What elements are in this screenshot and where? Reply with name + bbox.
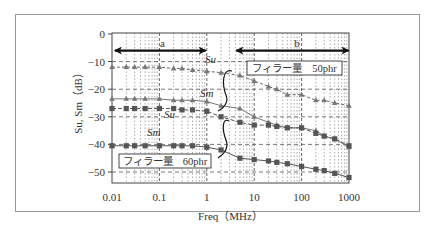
triangle-marker [190,67,196,72]
square-marker [285,161,290,166]
square-marker [299,125,304,130]
square-marker [332,136,337,141]
chart: 0−10−20−30−40−500.010.11101001000Freq（MH… [0,0,436,240]
square-marker [109,106,114,111]
x-axis-label: Freq（MHz） [198,210,263,222]
square-marker [190,143,195,148]
square-marker [204,109,209,114]
y-tick-label: −40 [88,138,106,150]
range-label-a: a [160,37,165,49]
y-axis-label: Su, Sm（dB） [72,67,84,134]
square-marker [237,156,242,161]
square-marker [266,158,271,163]
triangle-marker [171,66,177,71]
series-2 [109,106,351,148]
square-marker [190,107,195,112]
filler-60phr-label: フィラー量 60phr [123,156,208,167]
square-marker [143,143,148,148]
square-marker [204,145,209,150]
square-marker [274,124,279,129]
y-tick-label: −10 [88,56,106,68]
filler-50phr-label: フィラー量 50phr [252,63,337,74]
curve-label: Su [205,53,217,65]
y-tick-label: −30 [88,111,106,123]
y-tick-label: 0 [100,28,106,40]
range-label-b: b [294,37,300,49]
square-marker [157,143,162,148]
series-1 [109,96,352,149]
x-tick-label: 10 [249,191,261,203]
square-marker [237,120,242,125]
square-marker [252,157,257,162]
square-marker [346,143,351,148]
square-marker [157,106,162,111]
x-tick-label: 0.1 [153,191,167,203]
square-marker [179,107,184,112]
square-marker [218,114,223,119]
curve-label: Su [164,108,176,120]
y-tick-label: −20 [88,83,106,95]
square-marker [274,160,279,165]
square-marker [346,175,351,180]
x-tick-label: 100 [293,191,310,203]
square-marker [109,143,114,148]
square-marker [171,143,176,148]
square-marker [252,122,257,127]
square-marker [218,147,223,152]
square-marker [124,106,129,111]
axes: 0−10−20−30−40−500.010.11101001000Freq（MH… [72,28,361,222]
square-marker [266,122,271,127]
square-marker [143,106,148,111]
square-marker [124,143,129,148]
square-marker [132,106,137,111]
x-tick-label: 1 [204,191,210,203]
curve-label: Sm [147,126,161,138]
square-marker [299,164,304,169]
triangle-marker [179,66,185,71]
square-marker [332,171,337,176]
square-marker [285,125,290,130]
annotations: abフィラー量 50phrフィラー量 60phrSuSmSuSm [115,37,349,168]
square-marker [179,143,184,148]
y-tick-label: −50 [88,166,106,178]
curve-label: Sm [200,87,214,99]
square-marker [313,167,318,172]
x-tick-label: 1000 [338,191,361,203]
square-marker [132,143,137,148]
square-marker [322,134,327,139]
square-marker [322,168,327,173]
square-marker [313,131,318,136]
x-tick-label: 0.01 [102,191,121,203]
